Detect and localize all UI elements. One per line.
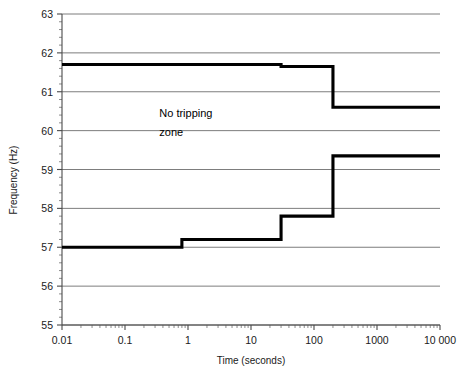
x-tick-label-0.1: 0.1 <box>118 334 133 346</box>
y-tick-label-57: 57 <box>41 241 53 253</box>
x-axis-title: Time (seconds) <box>217 355 286 366</box>
x-tick-label-100: 100 <box>305 334 323 346</box>
x-tick-label-1: 1 <box>185 334 191 346</box>
y-tick-label-58: 58 <box>41 202 53 214</box>
y-tick-label-55: 55 <box>41 319 53 331</box>
frequency-tripping-chart: 555657585960616263 0.010.1110100100010 0… <box>0 0 468 381</box>
y-tick-label-63: 63 <box>41 8 53 20</box>
x-tick-label-10000: 10 000 <box>424 334 456 346</box>
x-tick-label-1000: 1000 <box>365 334 389 346</box>
y-tick-label-62: 62 <box>41 47 53 59</box>
annotation-text-1: zone <box>159 126 183 138</box>
chart-background <box>0 0 468 381</box>
y-tick-label-59: 59 <box>41 164 53 176</box>
y-tick-label-61: 61 <box>41 86 53 98</box>
y-tick-label-60: 60 <box>41 125 53 137</box>
x-tick-label-10: 10 <box>245 334 257 346</box>
y-tick-label-56: 56 <box>41 280 53 292</box>
y-axis-title: Frequency (Hz) <box>8 146 19 215</box>
y-tick-labels-group: 555657585960616263 <box>41 8 53 331</box>
x-tick-label-0.01: 0.01 <box>52 334 73 346</box>
annotation-text-0: No tripping <box>159 107 212 119</box>
